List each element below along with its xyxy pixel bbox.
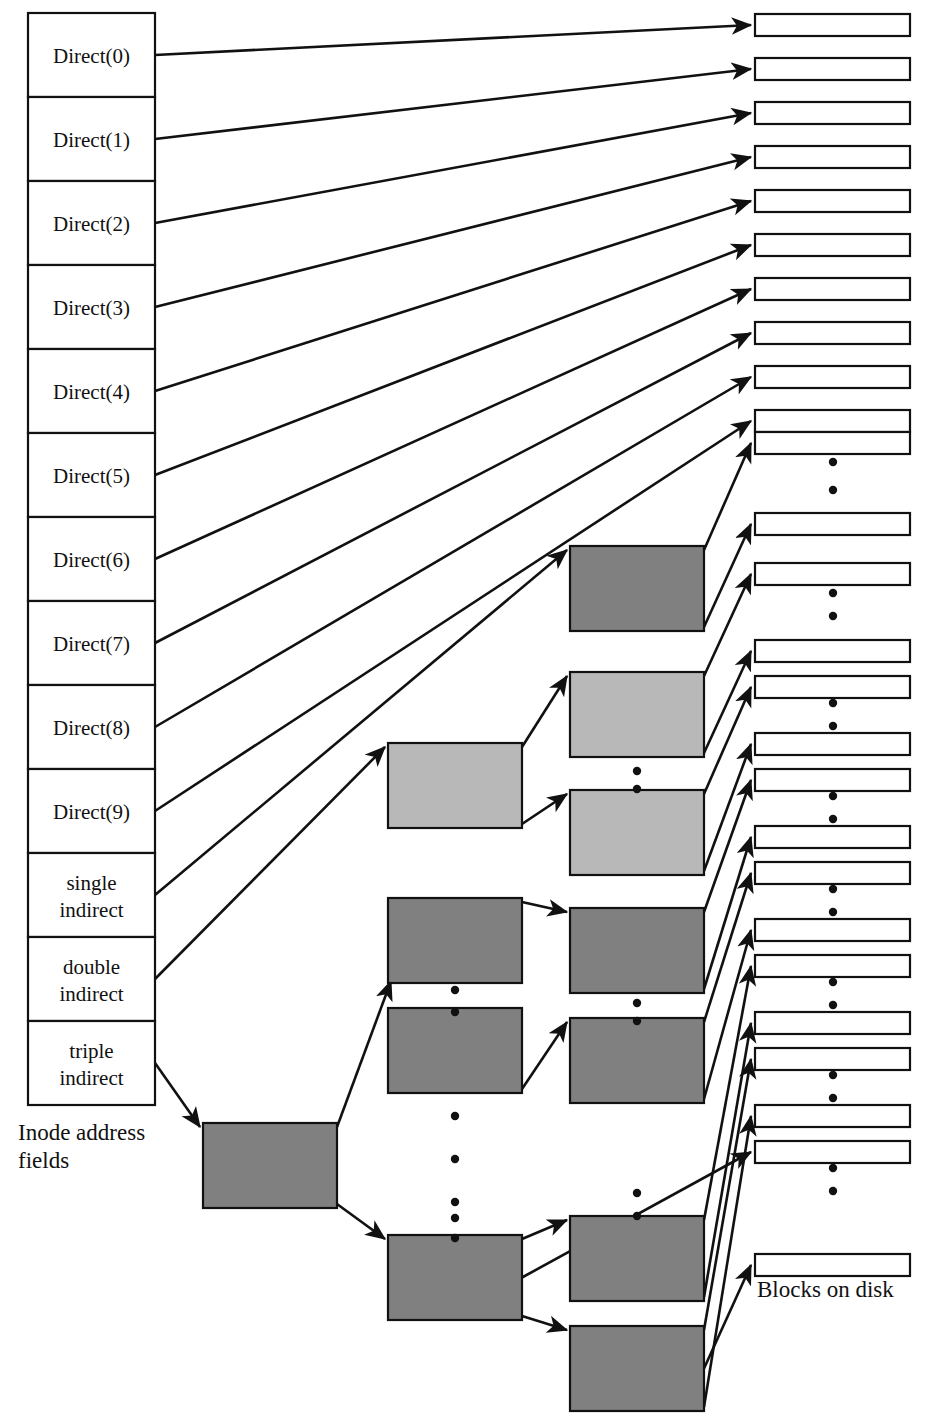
double-indirect-child-1[interactable] [570,672,704,757]
disk-block-3[interactable] [755,146,910,168]
direct-pointer-0 [155,25,751,55]
disk-block-11[interactable] [755,513,910,535]
direct-pointer-4 [155,201,751,391]
indirect-dots-2 [633,999,641,1007]
inode-field-double-indirect-11[interactable] [28,937,155,1021]
disk-dots-8 [829,1164,837,1172]
double-indirect-child-2[interactable] [570,790,704,875]
disk-block-0[interactable] [755,14,910,36]
triple-indirect-child-2[interactable] [388,1008,522,1093]
inode-field-label: triple [69,1039,113,1063]
si-leaf-1 [704,443,751,550]
triple-leaf-block-3[interactable] [570,1216,704,1301]
disk-dots-1 [829,486,837,494]
di-child-1 [522,676,567,747]
disk-dots-5 [829,908,837,916]
disk-dots-5 [829,885,837,893]
indirect-dots-5 [451,1214,459,1222]
indirect-block-layer [203,546,704,1411]
disk-dots-2 [829,612,837,620]
inode-field-label: Direct(8) [53,716,130,740]
indirect-dots-5 [451,1234,459,1242]
disk-block-7[interactable] [755,322,910,344]
root-dots [451,1198,459,1206]
single-indirect-block[interactable] [570,546,704,631]
tri-leaf-link-2 [522,1022,567,1089]
indirect-dots-4 [451,986,459,994]
disk-dots-6 [829,978,837,986]
direct-pointer-3 [155,157,751,307]
indirect-dots-3 [633,1212,641,1220]
inode-field-label: indirect [59,898,123,922]
disk-block-9[interactable] [755,410,910,432]
single-indirect-pointer [155,550,567,895]
tri-disk-extra-2 [704,1265,751,1369]
indirect-dots-2 [633,1017,641,1025]
disk-dots-3 [829,699,837,707]
disk-block-1[interactable] [755,58,910,80]
tri-leaf-link-4 [522,1316,567,1330]
disk-block-12[interactable] [755,563,910,585]
disk-dots-4 [829,815,837,823]
indirect-dots-4 [451,1008,459,1016]
triple-indirect-child-3[interactable] [388,1235,522,1320]
disk-block-14[interactable] [755,676,910,698]
inode-table: Direct(0)Direct(1)Direct(2)Direct(3)Dire… [28,13,155,1105]
inode-field-label: single [66,871,116,895]
inode-field-label: Direct(4) [53,380,130,404]
tri-disk-2 [704,837,751,989]
inode-field-label: Direct(3) [53,296,130,320]
triple-leaf-block-4[interactable] [570,1326,704,1411]
disk-block-4[interactable] [755,190,910,212]
di-leaf-4 [704,744,751,871]
inode-field-label: Direct(9) [53,800,130,824]
disk-dots-7 [829,1094,837,1102]
triple-indirect-child-1[interactable] [388,898,522,983]
indirect-dots-1 [633,767,641,775]
disk-block-25[interactable] [755,1254,910,1276]
disk-block-21[interactable] [755,1012,910,1034]
tri-leaf-link-3 [522,1220,567,1239]
triple-leaf-block-1[interactable] [570,908,704,993]
disk-block-2[interactable] [755,102,910,124]
disk-block-8[interactable] [755,366,910,388]
disk-block-20[interactable] [755,955,910,977]
disk-block-23[interactable] [755,1105,910,1127]
inode-field-label: indirect [59,1066,123,1090]
double-indirect-pointer [155,747,385,979]
inode-field-single-indirect-10[interactable] [28,853,155,937]
tri-mid-1 [337,981,391,1127]
disk-block-5[interactable] [755,234,910,256]
inode-caption-line2: fields [18,1148,69,1173]
double-indirect-block[interactable] [388,743,522,828]
indirect-dots-1 [633,785,641,793]
disk-block-16[interactable] [755,769,910,791]
disk-block-6[interactable] [755,278,910,300]
inode-field-label: indirect [59,982,123,1006]
disk-block-22[interactable] [755,1048,910,1070]
inode-field-label: double [63,955,120,979]
disk-block-10[interactable] [755,432,910,454]
disk-caption: Blocks on disk [757,1277,894,1302]
triple-leaf-block-2[interactable] [570,1018,704,1103]
disk-block-19[interactable] [755,919,910,941]
disk-block-24[interactable] [755,1141,910,1163]
inode-field-label: Direct(0) [53,44,130,68]
di-child-2 [522,794,567,824]
triple-indirect-block[interactable] [203,1123,337,1208]
indirect-dots-3 [633,1189,641,1197]
disk-block-18[interactable] [755,862,910,884]
inode-field-label: Direct(5) [53,464,130,488]
disk-dots-6 [829,1001,837,1009]
inode-field-label: Direct(7) [53,632,130,656]
disk-dots-3 [829,722,837,730]
disk-block-13[interactable] [755,640,910,662]
direct-pointer-5 [155,245,751,475]
disk-block-15[interactable] [755,733,910,755]
inode-field-label: Direct(6) [53,548,130,572]
disk-dots-8 [829,1187,837,1195]
direct-pointer-6 [155,289,751,559]
inode-field-triple-indirect-12[interactable] [28,1021,155,1105]
disk-block-17[interactable] [755,826,910,848]
tri-mid-2 [337,1204,385,1239]
